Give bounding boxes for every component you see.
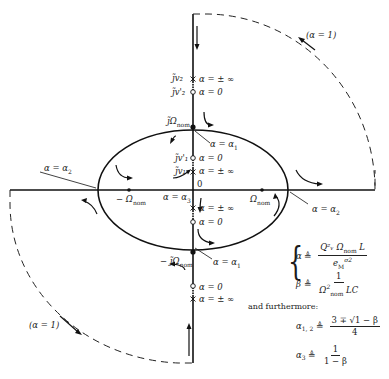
label-alpha2-left: α = α2 bbox=[44, 164, 72, 175]
label-jv1p: j̃v'₁ bbox=[175, 154, 188, 163]
point-neg-jOmega-nom bbox=[190, 249, 195, 254]
label-lower-zero-2: α = 0 bbox=[199, 283, 223, 292]
beta-definition: β ≜ 1 Ω2nom LC bbox=[296, 272, 360, 296]
zero-lower-1 bbox=[191, 220, 196, 225]
alpha12-definition: α1, 2 ≜ 3 ∓ √1 − β 4 bbox=[296, 316, 380, 336]
dashed-arc-top-right bbox=[193, 14, 375, 190]
label-jOmega-nom: j̃Ωnom bbox=[167, 117, 190, 128]
label-jv2: j̃v₂ bbox=[172, 74, 183, 83]
alpha3-definition: α3 ≜ 1 1 − β bbox=[296, 345, 349, 365]
label-lower-inf-1: α = ± ∞ bbox=[199, 204, 234, 213]
label-jv2-alpha: α = ± ∞ bbox=[199, 75, 234, 84]
label-alpha2-right: α = α2 bbox=[312, 205, 340, 216]
furthermore-text: and furthermore: bbox=[248, 303, 318, 311]
label-jv1: j̃v₁ bbox=[175, 167, 186, 176]
point-omega-nom bbox=[260, 188, 264, 192]
label-jv2p-alpha: α = 0 bbox=[199, 88, 223, 97]
label-jv2p: j̃v'₂ bbox=[172, 88, 185, 97]
zero-jv1p bbox=[191, 156, 196, 161]
label-jv1-alpha: α = ± ∞ bbox=[199, 167, 234, 176]
label-alpha-one-bottom: (α = 1) bbox=[29, 321, 59, 330]
dashed-arc-bottom-left bbox=[10, 190, 193, 363]
label-alpha1-top: α = α1 bbox=[210, 140, 238, 151]
label-alpha3: α = α3 bbox=[163, 193, 191, 204]
label-neg-jOmega-nom: − j̃Ωnom bbox=[160, 257, 193, 268]
zero-jv2p bbox=[191, 90, 196, 95]
label-jv1p-alpha: α = 0 bbox=[199, 154, 223, 163]
label-lower-zero-1: α = 0 bbox=[199, 218, 223, 227]
label-origin: 0 bbox=[197, 180, 202, 189]
label-neg-omega-nom: − Ωnom bbox=[116, 195, 146, 206]
label-omega-nom: Ωnom bbox=[250, 195, 270, 206]
label-lower-inf-2: α = ± ∞ bbox=[199, 295, 234, 304]
alpha-definition: α ≜ Q²ᵥ Ωnom L eMσ2 bbox=[296, 243, 367, 269]
point-neg-omega-nom bbox=[127, 188, 131, 192]
zero-lower-2 bbox=[191, 284, 196, 289]
label-alpha1-bottom: α = α1 bbox=[213, 258, 241, 269]
point-jOmega-nom bbox=[190, 124, 195, 129]
label-alpha-one-top: (α = 1) bbox=[306, 31, 336, 40]
